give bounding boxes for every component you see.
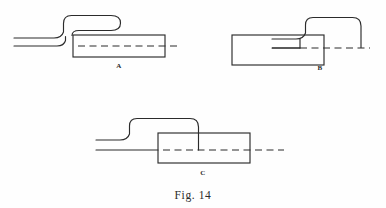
panel-c: C	[96, 119, 284, 178]
figure-container: A B	[0, 0, 386, 208]
panel-c-label: C	[200, 169, 205, 177]
panel-b: B	[232, 18, 370, 73]
panel-b-label: B	[318, 64, 323, 72]
panel-c-vessel-rect	[158, 133, 250, 163]
panel-b-pipe-upper-wall	[272, 18, 361, 48]
figure-canvas: A B	[0, 0, 386, 208]
panel-a-label: A	[116, 62, 121, 70]
panel-a: A	[14, 16, 180, 71]
figure-caption: Fig. 14	[175, 189, 212, 202]
panel-c-pipe-upper-wall	[96, 119, 199, 151]
